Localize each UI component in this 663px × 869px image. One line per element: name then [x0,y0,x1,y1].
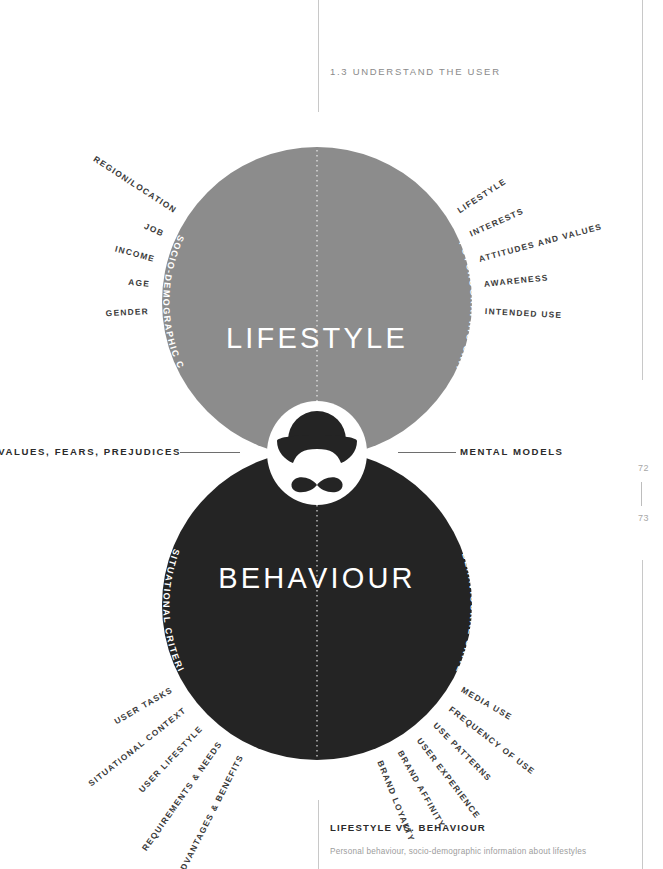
caption-heading: LIFESTYLE VS. BEHAVIOUR [330,822,650,833]
venn-diagram: LIFESTYLE BEHAVIOUR SOCIO-DEMOGRAPHIC CR… [0,0,663,869]
figure-caption: LIFESTYLE VS. BEHAVIOUR Personal behavio… [330,822,650,858]
right-connector-line [398,452,456,453]
spoke-top-left-gender: GENDER [106,306,150,318]
arc-label-socio-demographic: SOCIO-DEMOGRAPHIC CRITERIA [0,0,186,371]
center-label-mental-models: MENTAL MODELS [460,446,564,457]
page-spread: 1.3 UNDERSTAND THE USER 72 73 LIFESTYLE … [0,0,663,869]
left-connector-line [180,452,240,453]
lifestyle-title: LIFESTYLE [226,322,408,354]
bowler-hat-moustache-icon [267,401,367,505]
caption-body: Personal behaviour, socio-demographic in… [330,846,650,858]
behaviour-title: BEHAVIOUR [218,562,415,594]
arc-label-situational: SITUATIONAL CRITERIA [0,0,186,674]
center-label-values-fears-prejudices: VALUES, FEARS, PREJUDICES [0,446,181,457]
